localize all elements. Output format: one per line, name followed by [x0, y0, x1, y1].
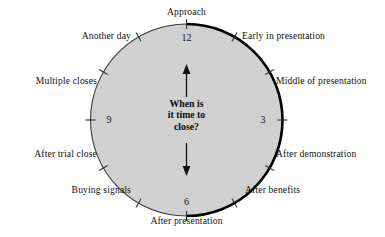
- diagram-canvas: 12 3 6 9 When is it time to close? Appro…: [0, 0, 385, 237]
- center-question-text: When is it time to close?: [127, 98, 247, 132]
- label-another-day: Another day: [0, 31, 131, 41]
- label-early-in-presentation: Early in presentation: [242, 31, 325, 41]
- label-after-demonstration: After demonstration: [276, 149, 356, 159]
- label-approach: Approach: [127, 7, 247, 17]
- label-after-benefits: After benefits: [245, 185, 300, 195]
- label-after-trial-close: After trial close: [0, 149, 97, 159]
- label-buying-signals: Buying signals: [0, 185, 131, 195]
- label-after-presentation: After presentation: [127, 216, 247, 226]
- numeral-12: 12: [177, 33, 197, 43]
- label-middle-of-presentation: Middle of presentation: [276, 76, 367, 86]
- numeral-9: 9: [101, 115, 117, 125]
- numeral-3: 3: [255, 115, 271, 125]
- numeral-6: 6: [179, 197, 195, 207]
- label-multiple-closes: Multiple closes: [0, 76, 97, 86]
